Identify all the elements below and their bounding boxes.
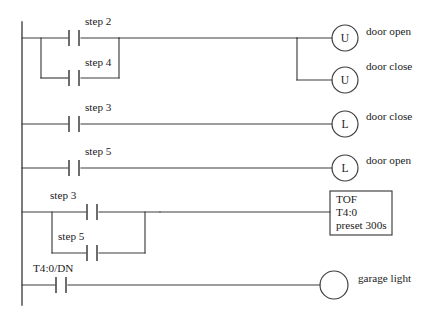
contact-step-3-rung4[interactable]: [87, 204, 97, 220]
timer-preset: preset 300s: [336, 219, 387, 231]
coil-u-door-close[interactable]: U: [332, 67, 358, 93]
timer-block-tof[interactable]: TOF T4:0 preset 300s: [330, 191, 392, 235]
contact-step-3-rung2-label: step 3: [85, 101, 112, 113]
contact-step-5-rung3[interactable]: [69, 160, 79, 176]
coil-u-door-close-letter: U: [341, 74, 350, 86]
coil-garage-light-label: garage light: [358, 272, 412, 284]
coil-u-door-open-label: door open: [366, 25, 411, 37]
rung-2: step 3 L door close: [22, 101, 412, 137]
coil-l-door-close[interactable]: L: [332, 111, 358, 137]
rung-1: step 2 step 4 U door open U door clo: [22, 15, 412, 93]
contact-step-5-rung4[interactable]: [87, 245, 97, 261]
contact-step-2-label: step 2: [85, 15, 111, 27]
coil-u-door-open[interactable]: U: [332, 25, 358, 51]
coil-u-door-close-label: door close: [366, 60, 412, 72]
contact-t40-dn-label: T4:0/DN: [33, 262, 73, 274]
contact-step-5-rung4-label: step 5: [58, 230, 85, 242]
contact-step-5-rung3-label: step 5: [85, 145, 112, 157]
timer-instruction: TOF: [336, 193, 357, 205]
contact-step-2[interactable]: [69, 30, 79, 46]
rung-5: T4:0/DN garage light: [22, 262, 412, 299]
coil-l-door-close-letter: L: [341, 118, 348, 130]
timer-address: T4:0: [336, 206, 358, 218]
coil-u-door-open-letter: U: [341, 32, 350, 44]
coil-l-door-open[interactable]: L: [332, 155, 358, 181]
contact-t40-dn[interactable]: [56, 277, 66, 293]
rung-3: step 5 L door open: [22, 145, 411, 181]
ladder-logic-diagram: step 2 step 4 U door open U door clo: [0, 0, 443, 327]
coil-garage-light[interactable]: [320, 271, 348, 299]
coil-l-door-close-label: door close: [366, 110, 412, 122]
contact-step-4[interactable]: [69, 70, 79, 86]
coil-l-door-open-label: door open: [366, 154, 411, 166]
contact-step-3-rung4-label: step 3: [50, 189, 77, 201]
contact-step-4-label: step 4: [85, 56, 112, 68]
contact-step-3-rung2[interactable]: [69, 116, 79, 132]
coil-l-door-open-letter: L: [341, 162, 348, 174]
rung-4: step 3 step 5 TOF T4:0 preset 300s: [22, 189, 392, 261]
